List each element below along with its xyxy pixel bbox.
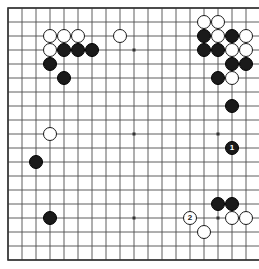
stone-white-move-2: 2: [183, 211, 197, 225]
star-point: [133, 49, 136, 52]
move-number-label: 1: [226, 142, 238, 154]
go-board-diagram: 12: [0, 0, 259, 269]
star-point: [133, 133, 136, 136]
move-number-label: 2: [184, 212, 196, 224]
star-point: [217, 133, 220, 136]
stone-black-move-1: 1: [225, 141, 239, 155]
star-point: [133, 217, 136, 220]
star-point: [217, 217, 220, 220]
